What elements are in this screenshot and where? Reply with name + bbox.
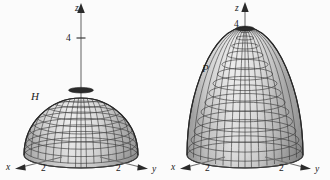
z-tick-label-4: 4 (66, 33, 71, 43)
axis-label-z: z (74, 3, 79, 13)
axis-label-x: x (170, 162, 176, 172)
figure-panel-paraboloid: P z 4 x 2 2 y (165, 0, 330, 180)
x-tick-label-2: 2 (205, 163, 210, 173)
x-tick-label-2: 2 (41, 163, 46, 173)
z-tick-label-4: 4 (234, 19, 239, 29)
y-tick-label-2: 2 (279, 163, 284, 173)
x-axis-arrow-icon (180, 164, 191, 170)
y-tick-label-2: 2 (116, 163, 121, 173)
axis-label-y: y (314, 164, 320, 174)
axis-label-z: z (234, 3, 239, 13)
surface-label-P: P (201, 62, 209, 74)
paraboloid-plot-svg: P z 4 x 2 2 y (165, 0, 330, 180)
axis-label-x: x (5, 162, 11, 172)
hemisphere-plot-svg: H z 4 x 2 2 y (0, 0, 165, 180)
axis-label-y: y (151, 164, 157, 174)
y-axis-arrow-icon (300, 164, 311, 170)
y-axis-arrow-icon (137, 164, 148, 170)
z-axis-arrow-icon (241, 2, 248, 12)
paraboloid-surface (187, 26, 303, 168)
figure-container: H z 4 x 2 2 y (0, 0, 330, 180)
figure-panel-hemisphere: H z 4 x 2 2 y (0, 0, 165, 180)
x-axis-arrow-icon (15, 164, 26, 170)
surface-label-H: H (30, 90, 40, 102)
hemisphere-apex-cap (69, 87, 94, 93)
